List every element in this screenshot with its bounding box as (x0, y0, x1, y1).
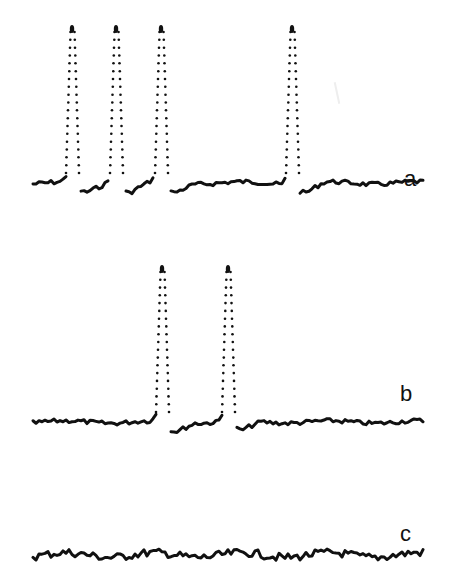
peak-dot (154, 172, 157, 175)
peak-dot (158, 39, 161, 42)
peak-dot (66, 125, 69, 128)
peak-dot (67, 101, 70, 104)
peak-dot (156, 93, 159, 96)
peak-dot (109, 156, 112, 159)
peak-dot (222, 364, 225, 367)
peak-dot (166, 341, 169, 344)
peak-dot (166, 364, 169, 367)
peak-dot (297, 148, 300, 151)
trace-baseline (33, 177, 66, 184)
peak-dot (288, 78, 291, 81)
peak-dot (165, 125, 168, 128)
peak-dot (163, 39, 166, 42)
peak-dot (225, 294, 228, 297)
peak-dot (294, 54, 297, 57)
peak-dot (113, 46, 116, 49)
peak-dot (157, 341, 160, 344)
peak-dot (69, 54, 72, 57)
peak-dot (76, 117, 79, 120)
peak-dot (164, 294, 167, 297)
peak-dot (163, 62, 166, 65)
peak-dot (111, 93, 114, 96)
peak-dot (119, 78, 122, 81)
peak-dot (77, 156, 80, 159)
peak-dot (68, 86, 71, 89)
peak-dot (121, 140, 124, 143)
peak-dot (167, 164, 170, 167)
peak-dot (119, 86, 122, 89)
peak-dot (288, 62, 291, 65)
peak-dot (118, 46, 121, 49)
peak-dot (66, 140, 69, 143)
trace-baseline (33, 414, 156, 425)
peak-dot (156, 380, 159, 383)
peak-dot (155, 395, 158, 398)
peak-dot (120, 125, 123, 128)
peak-dot (74, 54, 77, 57)
peak-dot (230, 302, 233, 305)
trace-a (33, 25, 423, 194)
peak-dot (167, 372, 170, 375)
peak-dot (110, 125, 113, 128)
peak-dot (156, 109, 159, 112)
peak-dot (74, 46, 77, 49)
peak-dot (113, 54, 116, 57)
peak-dot (122, 172, 125, 175)
peak-dot (166, 356, 169, 359)
peak-dot (232, 356, 235, 359)
peak-dot (231, 325, 234, 328)
peak-dot (112, 70, 115, 73)
peak-dot (232, 364, 235, 367)
peak-dot (68, 70, 71, 73)
peak-dot (294, 46, 297, 49)
peak-tip (159, 25, 163, 33)
peak-dot (223, 356, 226, 359)
peak-dot (76, 109, 79, 112)
peak-dot (288, 70, 291, 73)
peak-dot (156, 387, 159, 390)
peak-dot (121, 133, 124, 136)
peak-dot (165, 333, 168, 336)
peak-dot (233, 380, 236, 383)
peak-dot (231, 310, 234, 313)
peak-dot (119, 70, 122, 73)
peak-dot (118, 39, 121, 42)
peak-dot (294, 39, 297, 42)
peak-dot (287, 101, 290, 104)
peak-dot (289, 46, 292, 49)
peak-dot (158, 310, 161, 313)
peak-dot (155, 140, 158, 143)
peak-dot (233, 387, 236, 390)
peak-dot (121, 148, 124, 151)
peak-dot (109, 164, 112, 167)
peak-dot (224, 310, 227, 313)
peak-dot (224, 302, 227, 305)
peak-dot (287, 93, 290, 96)
peak-dot (75, 86, 78, 89)
peak-dot (76, 125, 79, 128)
trace-baseline (126, 178, 153, 194)
peak-dot (223, 333, 226, 336)
peak-dot (110, 140, 113, 143)
peak-dot (157, 356, 160, 359)
peak-dot (157, 70, 160, 73)
peak-dot (118, 62, 121, 65)
peak-dot (155, 411, 158, 414)
peak-dot (230, 279, 233, 282)
peak-dot (65, 172, 68, 175)
peak-dot (157, 78, 160, 81)
peak-dot (164, 93, 167, 96)
peak-dot (166, 148, 169, 151)
peak-dot (294, 62, 297, 65)
peak-dot (74, 39, 77, 42)
peak-dot (286, 148, 289, 151)
peak-dot (287, 109, 290, 112)
peak-dot (234, 411, 237, 414)
peak-dot (286, 125, 289, 128)
peak-dot (78, 164, 81, 167)
peak-dot (164, 70, 167, 73)
peak-dot (166, 156, 169, 159)
peak-dot (168, 403, 171, 406)
peak-dot (231, 317, 234, 320)
trace-baseline (171, 415, 222, 432)
